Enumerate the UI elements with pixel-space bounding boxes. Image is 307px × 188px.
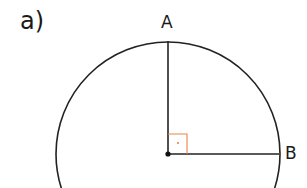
right-angle-marker [168, 134, 187, 154]
center-point [165, 151, 170, 156]
right-angle-dot [177, 142, 179, 144]
circle-diagram [0, 0, 307, 188]
